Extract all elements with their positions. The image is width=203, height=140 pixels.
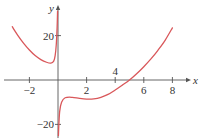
- curves: [12, 11, 172, 135]
- x-axis-label: x: [192, 74, 198, 86]
- x-tick-label: 8: [170, 84, 176, 96]
- function-plot: xy−2246820−20: [0, 0, 203, 140]
- x-tick-label: 2: [84, 84, 90, 96]
- y-axis-arrow-icon: [56, 5, 60, 10]
- x-tick-label: 6: [141, 84, 147, 96]
- y-tick-label: 20: [43, 30, 55, 42]
- x-tick-label: −2: [24, 84, 36, 96]
- x-tick-label: 4: [112, 65, 118, 77]
- labels: xy−2246820−20: [24, 2, 198, 130]
- y-tick-label: −20: [37, 118, 55, 130]
- y-axis-label: y: [48, 2, 54, 14]
- x-axis-arrow-icon: [186, 78, 191, 82]
- axes: [4, 5, 191, 138]
